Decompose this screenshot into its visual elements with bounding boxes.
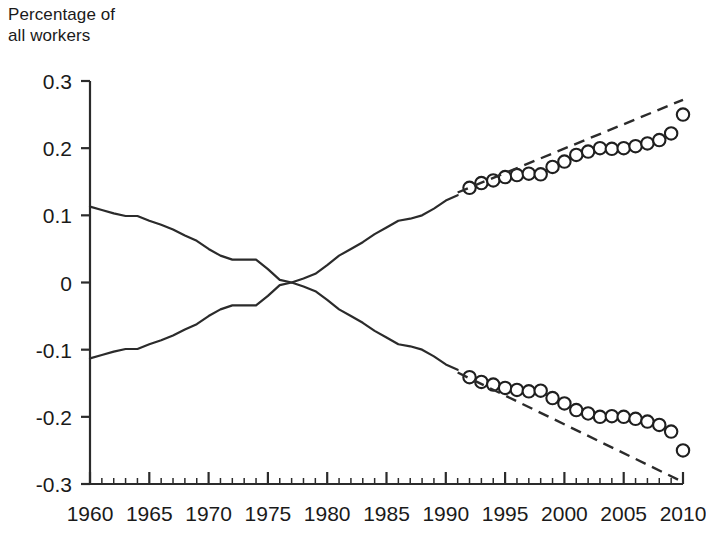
y-tick-label: 0.2 — [43, 137, 72, 160]
chart-series-group — [90, 100, 689, 482]
y-tick-label: -0.2 — [36, 406, 72, 429]
chart-plot-area: 0.30.20.10-0.1-0.2-0.3 19601965197019751… — [0, 0, 706, 543]
data-point-marker — [570, 149, 582, 161]
data-point-marker — [629, 140, 641, 152]
series-line-path — [90, 195, 458, 282]
data-point-marker — [665, 127, 677, 139]
data-point-marker — [677, 444, 689, 456]
data-point-marker — [582, 407, 594, 419]
x-tick-label: 1960 — [67, 502, 114, 525]
data-point-marker — [582, 145, 594, 157]
y-tick-label: 0 — [60, 272, 72, 295]
data-point-marker — [618, 411, 630, 423]
data-point-marker — [499, 382, 511, 394]
data-point-marker — [463, 182, 475, 194]
chart-root: Percentage of all workers 0.30.20.10-0.1… — [0, 0, 706, 543]
data-point-marker — [511, 384, 523, 396]
data-point-marker — [653, 419, 665, 431]
x-axis-labels: 1960196519701975198019851990199520002005… — [67, 502, 706, 525]
data-point-marker — [523, 167, 535, 179]
y-axis-ticks — [81, 81, 90, 484]
x-tick-label: 2000 — [541, 502, 588, 525]
data-point-marker — [606, 143, 618, 155]
data-point-marker — [558, 397, 570, 409]
data-point-marker — [534, 168, 546, 180]
y-tick-label: 0.1 — [43, 204, 72, 227]
y-tick-label: -0.1 — [36, 339, 72, 362]
x-tick-label: 1970 — [185, 502, 232, 525]
y-tick-label: 0.3 — [43, 70, 72, 93]
data-point-marker — [546, 392, 558, 404]
data-point-marker — [594, 411, 606, 423]
x-tick-label: 1995 — [482, 502, 529, 525]
x-tick-label: 2010 — [660, 502, 706, 525]
data-point-marker — [594, 142, 606, 154]
x-axis-ticks — [90, 472, 683, 484]
x-tick-label: 1990 — [422, 502, 469, 525]
data-point-marker — [570, 404, 582, 416]
x-tick-label: 1980 — [304, 502, 351, 525]
data-point-marker — [546, 161, 558, 173]
data-point-marker — [499, 171, 511, 183]
data-point-marker — [629, 413, 641, 425]
y-axis-labels: 0.30.20.10-0.1-0.2-0.3 — [36, 70, 72, 496]
data-point-marker — [641, 137, 653, 149]
data-point-marker — [665, 425, 677, 437]
data-point-marker — [534, 384, 546, 396]
data-point-marker — [677, 108, 689, 120]
x-tick-label: 1965 — [126, 502, 173, 525]
x-tick-label: 1975 — [245, 502, 292, 525]
x-tick-label: 2005 — [600, 502, 647, 525]
data-point-marker — [523, 385, 535, 397]
data-point-marker — [641, 415, 653, 427]
x-tick-label: 1985 — [363, 502, 410, 525]
data-point-marker — [558, 155, 570, 167]
data-point-marker — [606, 410, 618, 422]
y-tick-label: -0.3 — [36, 473, 72, 496]
data-point-marker — [618, 142, 630, 154]
data-point-marker — [653, 134, 665, 146]
series-line-path — [90, 283, 458, 370]
